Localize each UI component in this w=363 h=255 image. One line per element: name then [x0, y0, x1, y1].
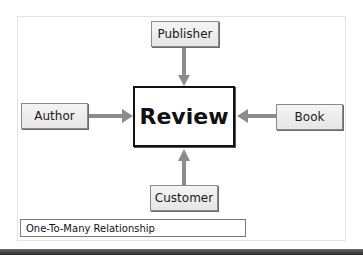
- entity-author: Author: [21, 103, 88, 129]
- legend: One-To-Many Relationship: [20, 219, 246, 237]
- bottom-divider: [0, 249, 363, 255]
- entity-book: Book: [276, 104, 343, 130]
- entity-review-center: Review: [133, 86, 235, 147]
- entity-label: Author: [34, 109, 74, 123]
- entity-label: Customer: [155, 191, 213, 205]
- entity-customer: Customer: [150, 185, 218, 211]
- entity-label: Book: [295, 110, 325, 124]
- center-label: Review: [140, 104, 229, 129]
- entity-publisher: Publisher: [151, 21, 219, 47]
- legend-label: One-To-Many Relationship: [26, 223, 155, 234]
- entity-label: Publisher: [157, 27, 212, 41]
